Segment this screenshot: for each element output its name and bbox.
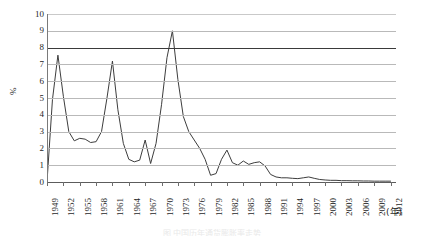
gridline-3 [47,132,396,133]
y-tick-label-7: 7 [20,60,44,69]
y-tick-label-4: 4 [20,110,44,119]
y-tick-label-1: 1 [20,161,44,170]
x-tick-label-1982: 1982 [231,198,240,216]
plot-area [47,14,396,182]
y-tick-label-5: 5 [20,94,44,103]
x-tick-label-2006: 2006 [362,198,371,216]
x-tick-label-1970: 1970 [166,198,175,216]
x-tick-label-1979: 1979 [215,198,224,216]
gridline-4 [47,115,396,116]
x-tick-label-1967: 1967 [149,198,158,216]
gridline-1 [47,165,396,166]
x-tick-label-2003: 2003 [345,198,354,216]
y-tick-label-10: 10 [20,10,44,19]
x-tick-label-1994: 1994 [296,198,305,216]
x-tick-label-1958: 1958 [100,198,109,216]
x-tick-label-1955: 1955 [84,198,93,216]
y-axis-title: % [9,88,18,96]
y-tick-label-9: 9 [20,26,44,35]
x-tick-label-1976: 1976 [198,198,207,216]
x-tick-label-1952: 1952 [67,198,76,216]
gridline-5 [47,98,396,99]
gridline-9 [47,31,396,32]
y-axis-tick-labels: 012345678910 [20,10,44,186]
x-tick-label-1988: 1988 [264,198,273,216]
x-tick-label-2000: 2000 [329,198,338,216]
x-tick-label-1964: 1964 [133,198,142,216]
x-tick-label-1961: 1961 [116,198,125,216]
x-tick-label-1973: 1973 [182,198,191,216]
x-axis-tick-labels: 1949195219551958196119641967197019731976… [0,186,424,220]
y-tick-label-8: 8 [20,43,44,52]
gridline-6 [47,81,396,82]
x-axis-unit-label: (年) [386,208,402,217]
gridline-8 [47,48,396,49]
chart-figure: % 012345678910 1949195219551958196119641… [0,0,424,236]
y-tick-label-2: 2 [20,144,44,153]
gridline-2 [47,148,396,149]
gridline-10 [47,14,396,15]
x-tick-label-1985: 1985 [247,198,256,216]
x-tick-label-1991: 1991 [280,198,289,216]
y-axis-line [47,14,48,182]
x-tick-label-1949: 1949 [51,198,60,216]
y-tick-label-6: 6 [20,77,44,86]
gridline-7 [47,64,396,65]
y-tick-label-3: 3 [20,127,44,136]
figure-caption: 图 中国历年通货膨胀率走势 [0,229,424,236]
x-tick-label-1997: 1997 [313,198,322,216]
